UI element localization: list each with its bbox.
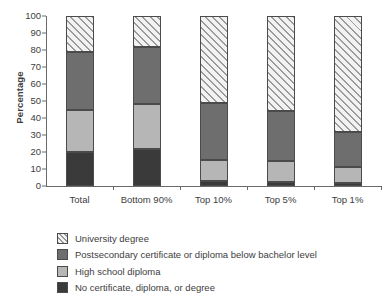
x-tick-label: Bottom 90% [121,194,173,205]
bar-segment[interactable] [334,16,362,132]
bar-segment[interactable] [66,52,94,110]
bar-segment[interactable] [66,16,94,52]
y-tick-label: 0 [36,181,41,191]
y-axis-title: Percentage [14,48,25,148]
bar-segment[interactable] [133,47,161,103]
y-tick-label: 70 [30,62,41,72]
bar-group [66,16,94,186]
bar-segment[interactable] [133,16,161,47]
bar-segment[interactable] [267,16,295,111]
stacked-bar[interactable] [66,16,94,186]
legend-label: No certificate, diploma, or degree [75,283,215,293]
y-tick-mark [42,135,46,136]
y-tick-label: 10 [30,164,41,174]
legend-item[interactable]: High school diploma [57,263,387,280]
chart-legend: University degreePostsecondary certifica… [57,230,387,296]
y-tick-label: 30 [30,130,41,140]
bar-segment[interactable] [334,167,362,183]
legend-label: High school diploma [75,267,161,277]
y-tick-label: 40 [30,113,41,123]
y-tick-mark [42,152,46,153]
bar-segment[interactable] [267,111,295,161]
x-tick-label: Top 1% [332,194,364,205]
x-tick-mark [113,186,114,190]
bar-segment[interactable] [66,110,94,153]
x-tick-mark [180,186,181,190]
bar-segment[interactable] [200,160,228,181]
y-tick-mark [42,169,46,170]
x-axis-line [46,186,381,187]
plot-area: 0102030405060708090100 [46,16,381,186]
bar-segment[interactable] [200,181,228,186]
legend-swatch-icon [57,282,68,293]
x-tick-mark [314,186,315,190]
bar-group [133,16,161,186]
x-tick-label: Top 5% [265,194,297,205]
bar-segment[interactable] [66,152,94,186]
bar-segment[interactable] [334,132,362,168]
stacked-bar[interactable] [267,16,295,186]
y-tick-label: 20 [30,147,41,157]
y-tick-mark [42,186,46,187]
legend-swatch-icon [57,233,68,244]
legend-item[interactable]: No certificate, diploma, or degree [57,280,387,297]
bar-group [267,16,295,186]
y-tick-label: 80 [30,45,41,55]
y-tick-mark [42,33,46,34]
bar-segment[interactable] [133,149,161,186]
x-tick-label: Top 10% [195,194,232,205]
legend-swatch-icon [57,249,68,260]
x-tick-mark [381,186,382,190]
bar-group [334,16,362,186]
legend-swatch-icon [57,266,68,277]
stacked-bar[interactable] [334,16,362,186]
stacked-bar[interactable] [133,16,161,186]
y-tick-mark [42,101,46,102]
y-tick-mark [42,118,46,119]
bar-segment[interactable] [334,183,362,186]
y-tick-label: 50 [30,96,41,106]
y-tick-label: 100 [25,11,41,21]
stacked-bar-chart-figure: Percentage 0102030405060708090100 TotalB… [0,0,391,307]
stacked-bar[interactable] [200,16,228,186]
legend-item[interactable]: University degree [57,230,387,247]
y-axis-line [46,16,47,186]
legend-item[interactable]: Postsecondary certificate or diploma bel… [57,247,387,264]
legend-label: University degree [75,234,149,244]
bar-segment[interactable] [200,16,228,103]
x-tick-mark [247,186,248,190]
legend-label: Postsecondary certificate or diploma bel… [75,250,317,260]
y-tick-mark [42,84,46,85]
y-tick-mark [42,50,46,51]
bar-segment[interactable] [200,103,228,160]
x-tick-label: Total [69,194,89,205]
bar-group [200,16,228,186]
y-tick-label: 60 [30,79,41,89]
y-tick-label: 90 [30,28,41,38]
y-tick-mark [42,67,46,68]
y-tick-mark [42,16,46,17]
bar-segment[interactable] [267,161,295,181]
bar-segment[interactable] [133,104,161,150]
bar-segment[interactable] [267,182,295,186]
